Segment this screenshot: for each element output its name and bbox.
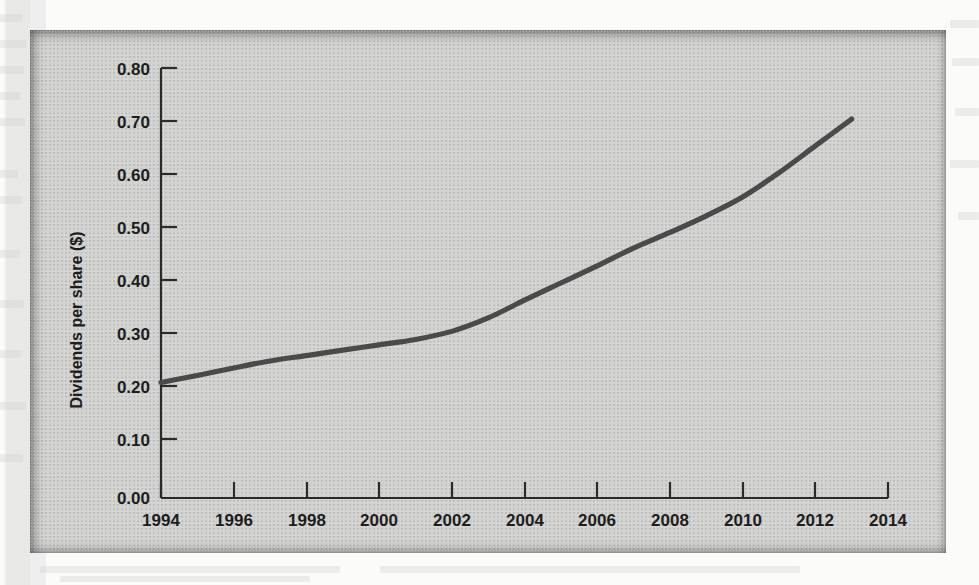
y-tick-label: 0.20 <box>117 378 150 397</box>
line-chart: Dividends per share ($) 0.80 0.70 0.60 0… <box>30 30 946 553</box>
x-tick-label: 1994 <box>142 511 180 530</box>
x-tick-label: 1996 <box>215 511 253 530</box>
y-tick-label: 0.40 <box>117 272 150 291</box>
y-axis-title: Dividends per share ($) <box>68 232 85 409</box>
figure-panel: Dividends per share ($) 0.80 0.70 0.60 0… <box>30 30 946 553</box>
y-tick-label: 0.70 <box>117 113 150 132</box>
y-tick-label: 0.30 <box>117 325 150 344</box>
y-tick-label: 0.60 <box>117 166 150 185</box>
y-tick-label: 0.80 <box>117 60 150 79</box>
x-tick-label: 1998 <box>288 511 326 530</box>
x-tick-label: 2000 <box>360 511 398 530</box>
y-tick-label: 0.50 <box>117 219 150 238</box>
y-tick-label: 0.10 <box>117 431 150 450</box>
x-tick-label: 2008 <box>651 511 689 530</box>
y-tick-label: 0.00 <box>117 489 150 508</box>
x-tick-label: 2002 <box>433 511 471 530</box>
x-tick-label: 2012 <box>796 511 834 530</box>
series-line-dividends-per-share <box>161 119 852 382</box>
x-tick-label: 2006 <box>578 511 616 530</box>
x-tick-marks <box>161 482 888 498</box>
x-tick-label: 2014 <box>869 511 907 530</box>
x-tick-label: 2010 <box>724 511 762 530</box>
x-tick-label: 2004 <box>506 511 544 530</box>
